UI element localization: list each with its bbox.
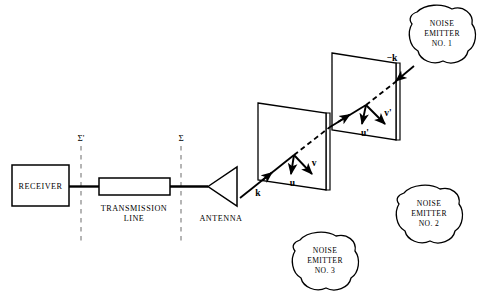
- noise-emitter-2-line1: NOISE: [417, 199, 441, 208]
- noise-emitter-2-line2: EMITTER: [411, 209, 447, 218]
- noise-emitter-3-line3: NO. 3: [315, 266, 336, 275]
- vector-minus-k-label: −k: [387, 53, 398, 63]
- receiver-block: RECEIVER: [12, 165, 69, 206]
- noise-emitter-3-line2: EMITTER: [307, 256, 343, 265]
- noise-emitter-3-line1: NOISE: [313, 246, 337, 255]
- vector-v-label: v: [312, 158, 317, 168]
- receiver-label: RECEIVER: [18, 182, 62, 191]
- far-wave-plane: [332, 53, 400, 140]
- noise-emitter-1: NOISE EMITTER NO. 1: [409, 5, 475, 63]
- sigma-prime-label: Σ': [78, 133, 85, 143]
- vector-v-prime-label: v': [384, 108, 391, 118]
- transmission-line-label-2: LINE: [124, 214, 145, 223]
- diagram-canvas: Σ' Σ RECEIVER TRANSMISSION LINE ANTENNA: [0, 0, 481, 295]
- noise-emitter-1-line3: NO. 1: [432, 39, 453, 48]
- noise-emitter-3: NOISE EMITTER NO. 3: [292, 232, 358, 290]
- noise-emitter-2: NOISE EMITTER NO. 2: [396, 185, 462, 243]
- sigma-label: Σ: [178, 133, 183, 143]
- noise-emitter-1-line1: NOISE: [430, 19, 454, 28]
- diagram-svg: Σ' Σ RECEIVER TRANSMISSION LINE ANTENNA: [0, 0, 481, 295]
- vector-k-label: k: [255, 188, 261, 198]
- antenna-symbol: ANTENNA: [199, 167, 242, 223]
- vector-u-label: u: [290, 178, 296, 188]
- noise-emitter-1-line2: EMITTER: [424, 29, 460, 38]
- vector-u-prime-label: u': [361, 128, 369, 138]
- near-wave-plane: [258, 103, 330, 190]
- transmission-line-label-1: TRANSMISSION: [101, 204, 168, 213]
- antenna-label: ANTENNA: [199, 214, 242, 223]
- noise-emitter-2-line3: NO. 2: [419, 219, 440, 228]
- transmission-line-block: TRANSMISSION LINE: [99, 178, 170, 223]
